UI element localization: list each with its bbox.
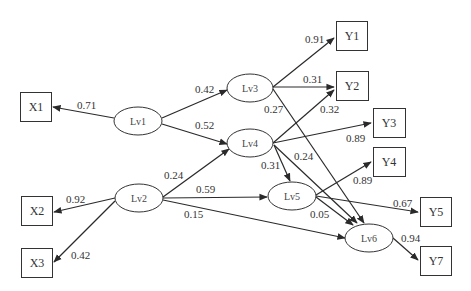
node-y7-label: Y7 (429, 254, 444, 268)
weight-lv2-lv5: 0.59 (196, 183, 216, 195)
weight-lv5-y4: 0.89 (353, 174, 373, 186)
node-lv1: Lv1 (114, 107, 162, 135)
weight-lv1-lv4: 0.52 (195, 119, 214, 131)
weight-lv4-y2: 0.32 (320, 103, 339, 115)
node-lv4-label: Lv4 (242, 138, 258, 149)
node-x2: X2 (22, 197, 53, 226)
node-lv2: Lv2 (115, 184, 163, 212)
weight-lv5-lv6: 0.05 (310, 208, 330, 220)
node-y5-label: Y5 (429, 205, 444, 219)
weight-lv2-x3: 0.42 (71, 249, 90, 261)
node-lv6-label: Lv6 (361, 233, 377, 244)
weight-lv6-y7: 0.94 (401, 232, 421, 244)
node-y4: Y4 (374, 148, 406, 177)
weight-lv1-x1: 0.71 (77, 99, 96, 111)
node-y4-label: Y4 (382, 155, 397, 169)
node-lv2-label: Lv2 (131, 193, 147, 204)
node-lv5-label: Lv5 (284, 191, 300, 202)
node-lv5: Lv5 (268, 182, 316, 210)
node-y1: Y1 (337, 22, 368, 51)
weight-lv3-y2: 0.31 (303, 73, 322, 85)
weight-lv1-lv3: 0.42 (195, 83, 214, 95)
node-lv3-label: Lv3 (242, 83, 258, 94)
weight-lv3-y1: 0.91 (305, 33, 324, 45)
node-y3-label: Y3 (382, 116, 397, 130)
weight-lv4-lv6: 0.24 (294, 150, 314, 162)
node-x1: X1 (21, 93, 52, 122)
node-y7: Y7 (421, 247, 452, 276)
node-x2-label: X2 (30, 204, 45, 218)
path-diagram: X1 X2 X3 Y1 Y2 Y3 Y4 Y5 Y7 Lv1 Lv2 (0, 0, 471, 291)
weight-lv2-x2: 0.92 (66, 193, 85, 205)
node-x3-label: X3 (30, 256, 45, 270)
node-y5: Y5 (421, 198, 452, 227)
weight-lv4-lv5: 0.31 (261, 159, 280, 171)
weight-lv2-lv4: 0.24 (164, 169, 184, 181)
node-y1-label: Y1 (345, 29, 360, 43)
node-y2-label: Y2 (345, 79, 360, 93)
node-y3: Y3 (374, 109, 406, 138)
node-lv6: Lv6 (345, 224, 393, 252)
node-lv4: Lv4 (227, 129, 273, 157)
weight-lv2-lv6: 0.15 (184, 208, 204, 220)
edge-lv2-lv5 (163, 197, 267, 198)
weight-lv5-y5: 0.67 (393, 197, 413, 209)
node-y2: Y2 (337, 72, 369, 101)
node-x3: X3 (22, 249, 53, 278)
node-lv1-label: Lv1 (130, 116, 146, 127)
node-lv3: Lv3 (227, 74, 273, 102)
node-x1-label: X1 (29, 100, 44, 114)
weight-lv4-y3: 0.89 (346, 132, 366, 144)
edge-lv4-y2 (273, 90, 334, 143)
weight-lv3-lv6: 0.27 (264, 103, 284, 115)
